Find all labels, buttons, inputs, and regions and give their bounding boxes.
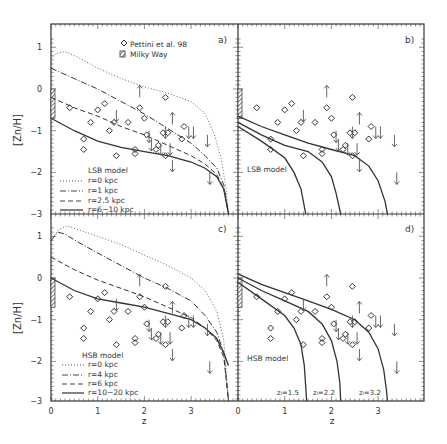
- diamond-marker: [88, 308, 94, 314]
- diamond-marker: [88, 119, 94, 125]
- y-tick-label: −1: [30, 127, 42, 136]
- diamond-marker: [162, 94, 168, 100]
- model-curve-r-2-5-kpc: [51, 97, 229, 214]
- x-tick-label: 3: [376, 407, 381, 416]
- legend-line-c-2: r=6 kpc: [88, 379, 118, 388]
- model-title-d: HSB model: [247, 354, 288, 363]
- model-title-a: LSB model: [88, 166, 128, 175]
- figure-canvas: 1100−1−1−2−2−3−300112233 [Zn/H] [Zn/H] z…: [0, 0, 447, 444]
- diamond-marker: [368, 313, 374, 319]
- diamond-marker: [289, 101, 295, 107]
- model-curve-zf-3-2: [238, 274, 387, 401]
- diamond-marker: [162, 342, 168, 348]
- model-curve-zf-1-5: [238, 282, 307, 401]
- diamond-marker: [300, 153, 306, 159]
- x-axis-label-right: z: [330, 416, 335, 426]
- diamond-marker: [319, 335, 325, 341]
- x-tick-label: 1: [282, 407, 287, 416]
- data-points: [67, 85, 400, 373]
- legend-line-a-0: r=0 kpc: [88, 176, 118, 185]
- milky-way-box: [51, 278, 55, 307]
- legend-line-a-2: r=2.5 kpc: [88, 196, 125, 205]
- x-tick-label: 3: [189, 407, 194, 416]
- diamond-marker: [349, 283, 355, 289]
- y-tick-label: 1: [37, 43, 42, 52]
- diamond-marker: [95, 107, 101, 113]
- diamond-marker: [81, 325, 87, 331]
- diamond-marker: [324, 294, 330, 300]
- x-tick-label: 2: [329, 407, 334, 416]
- diamond-marker: [81, 335, 87, 341]
- legend-line-a-1: r=1 kpc: [88, 186, 118, 195]
- diamond-marker: [81, 146, 87, 152]
- zf-label-2: zₗ=2.2: [313, 389, 335, 397]
- legend-observed: Pettini et al. 98: [121, 40, 187, 49]
- diamond-marker: [312, 308, 318, 314]
- zf-label-3: zₗ=3.2: [359, 389, 381, 397]
- diamond-marker: [132, 151, 138, 157]
- legend-milky-way-label: Milky Way: [130, 50, 168, 59]
- milky-way-box: [51, 89, 55, 118]
- diamond-marker: [132, 335, 138, 341]
- figure: 1100−1−1−2−2−3−300112233 [Zn/H] [Zn/H] z…: [0, 0, 447, 444]
- x-tick-label: 1: [95, 407, 100, 416]
- y-tick-label: −3: [30, 397, 42, 406]
- diamond-icon: [121, 40, 127, 46]
- y-axis-label-bottom: [Zn/H]: [12, 302, 23, 334]
- x-tick-label: 0: [48, 407, 53, 416]
- diamond-marker: [81, 136, 87, 142]
- panel-label-a: a): [218, 35, 227, 45]
- diamond-marker: [293, 317, 299, 323]
- diamond-marker: [349, 342, 355, 348]
- y-tick-label: −2: [30, 168, 42, 177]
- diamond-marker: [106, 128, 112, 134]
- diamond-marker: [319, 340, 325, 346]
- diamond-marker: [328, 115, 334, 121]
- y-tick-label: −3: [30, 210, 42, 219]
- diamond-marker: [324, 105, 330, 111]
- diamond-marker: [181, 124, 187, 130]
- model-curve-r-6-10-kpc: [51, 118, 229, 214]
- diamond-marker: [102, 101, 108, 107]
- x-tick-label: 0: [235, 407, 240, 416]
- panel-label-d: d): [405, 224, 414, 234]
- legend-milky-way: Milky Way: [120, 50, 168, 59]
- diamond-marker: [113, 153, 119, 159]
- legend-line-c-1: r=4 kpc: [88, 370, 118, 379]
- diamond-marker: [349, 94, 355, 100]
- panel-label-b: b): [405, 35, 414, 45]
- y-tick-label: −1: [30, 316, 42, 325]
- model-curve-r-10-20-kpc: [51, 278, 229, 366]
- diamond-marker: [282, 107, 288, 113]
- x-tick-label: 2: [142, 407, 147, 416]
- x-axis-label-left: z: [142, 416, 147, 426]
- y-tick-label: −2: [30, 357, 42, 366]
- legend-line-c-0: r=0 kpc: [88, 360, 118, 369]
- diamond-marker: [319, 151, 325, 157]
- legend-observed-label: Pettini et al. 98: [130, 40, 187, 49]
- zf-label-1: zₗ=1.5: [277, 389, 299, 397]
- milky-way-box: [238, 89, 242, 118]
- y-tick-label: 0: [37, 274, 42, 283]
- diamond-marker: [125, 308, 131, 314]
- y-axis-label-top: [Zn/H]: [12, 114, 23, 146]
- diamond-marker: [102, 290, 108, 296]
- labels: [Zn/H] [Zn/H] z z a) b) c) d) Pettini et…: [12, 35, 414, 426]
- diamond-marker: [312, 119, 318, 125]
- diamond-marker: [366, 136, 372, 142]
- model-title-b: LSB model: [247, 165, 287, 174]
- diamond-marker: [268, 325, 274, 331]
- diamond-marker: [368, 124, 374, 130]
- legend-line-a-3: r=6−10 kpc: [88, 205, 134, 214]
- hatched-box-icon: [120, 51, 125, 57]
- diamond-marker: [125, 119, 131, 125]
- y-tick-label: 0: [37, 85, 42, 94]
- model-title-c: HSB model: [82, 351, 123, 360]
- diamond-marker: [179, 325, 185, 331]
- diamond-marker: [268, 335, 274, 341]
- legend-line-c-3: r=10−20 kpc: [88, 388, 138, 397]
- diamond-marker: [254, 105, 260, 111]
- diamond-marker: [113, 342, 119, 348]
- diamond-marker: [293, 128, 299, 134]
- diamond-marker: [132, 340, 138, 346]
